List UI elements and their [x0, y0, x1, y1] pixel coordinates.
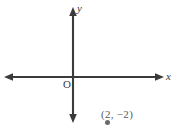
y-axis-bottom-arrow-icon [69, 114, 77, 123]
plotted-point-marker [105, 120, 110, 125]
point-coordinate-label: (2, −2) [101, 109, 133, 120]
x-axis-right-arrow-icon [155, 73, 164, 81]
x-axis-left-arrow-icon [4, 73, 13, 81]
y-axis-label: y [77, 3, 82, 14]
origin-label: O [63, 79, 71, 90]
coordinate-plane-figure: y x O (2, −2) [0, 0, 176, 133]
y-axis-top-arrow-icon [69, 7, 77, 16]
x-axis-label: x [166, 71, 171, 82]
axes-graphic [0, 0, 176, 133]
